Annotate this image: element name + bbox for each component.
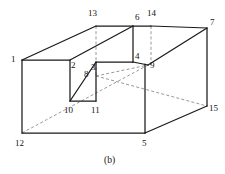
vertex-label-11: 11 [91,106,100,115]
edge-14-7 [151,26,207,28]
vertex-label-8: 8 [84,70,89,79]
vertex-label-12: 12 [15,139,24,148]
vertex-label-5: 5 [142,139,147,148]
edge-4-9 [133,62,148,65]
vertex-label-1: 1 [11,55,16,64]
figure-container: 123456789101112131415 (b) [0,0,225,174]
vertex-label-2: 2 [71,61,76,70]
edge-5-15 [145,106,207,133]
vertex-label-7: 7 [210,18,215,27]
edge-9-7 [148,28,207,65]
vertex-label-9: 9 [150,61,155,70]
vertex-label-13: 13 [88,9,97,18]
edge-1-13 [22,26,96,60]
hidden-8-15 [96,76,207,106]
hidden-edges-group [22,26,207,133]
vertex-label-10: 10 [64,106,73,115]
figure-caption: (b) [104,156,115,166]
vertex-label-3: 3 [91,63,96,72]
hidden-8-9 [96,65,148,76]
vertex-label-15: 15 [209,104,218,113]
vertex-label-6: 6 [135,13,140,22]
vertex-label-14: 14 [147,9,156,18]
edge-2-6 [70,26,133,60]
block-diagram-drawing [0,0,225,174]
vertex-label-4: 4 [135,52,140,61]
visible-edges-group [22,26,207,133]
